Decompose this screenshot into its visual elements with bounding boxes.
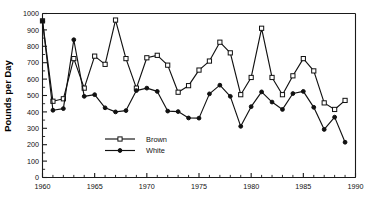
line-chart: Pounds per Day 0100200300400500600700800… — [0, 0, 375, 209]
series-line — [43, 21, 346, 142]
y-axis-title-label: Pounds per Day — [2, 60, 13, 132]
chart-container: Pounds per Day 0100200300400500600700800… — [0, 0, 375, 209]
data-point — [51, 108, 55, 112]
data-point — [166, 109, 170, 113]
y-tick-label: 500 — [27, 91, 39, 100]
y-axis-ticks: 01002003004005006007008009001000 — [23, 9, 47, 182]
x-axis-ticks: 1960196519701975198019851990 — [35, 173, 364, 191]
legend-item-white: White — [105, 146, 165, 155]
legend-marker-filled-circle — [118, 149, 122, 153]
data-point — [333, 115, 337, 119]
data-point — [312, 105, 316, 109]
data-point — [72, 38, 76, 42]
data-point — [155, 53, 159, 57]
data-point — [249, 75, 253, 79]
y-axis-title: Pounds per Day — [2, 60, 13, 132]
y-tick-label: 700 — [27, 58, 39, 67]
data-point — [176, 110, 180, 114]
data-point — [228, 51, 232, 55]
x-tick-label: 1965 — [87, 182, 103, 191]
data-point — [124, 109, 128, 113]
data-point — [187, 116, 191, 120]
data-point — [260, 90, 264, 94]
data-point — [72, 57, 76, 61]
data-point — [270, 75, 274, 79]
data-point — [301, 57, 305, 61]
data-point — [301, 90, 305, 94]
x-tick-label: 1980 — [243, 182, 259, 191]
data-point — [82, 94, 86, 98]
y-tick-label: 300 — [27, 124, 39, 133]
data-point — [155, 90, 159, 94]
data-point — [176, 90, 180, 94]
data-point — [343, 140, 347, 144]
y-tick-label: 900 — [27, 26, 39, 35]
data-point — [208, 92, 212, 96]
data-point — [270, 100, 274, 104]
y-tick-label: 100 — [27, 157, 39, 166]
data-point — [145, 86, 149, 90]
data-point — [312, 69, 316, 73]
data-point — [113, 18, 117, 22]
data-point — [166, 63, 170, 67]
data-point — [135, 89, 139, 93]
data-point — [218, 40, 222, 44]
chart-legend: BrownWhite — [105, 135, 167, 156]
data-point — [291, 74, 295, 78]
y-tick-label: 800 — [27, 42, 39, 51]
data-point — [93, 54, 97, 58]
data-point — [228, 94, 232, 98]
data-point — [333, 107, 337, 111]
data-point — [103, 106, 107, 110]
data-point — [260, 26, 264, 30]
x-tick-label: 1975 — [191, 182, 207, 191]
x-tick-label: 1960 — [35, 182, 51, 191]
data-point — [114, 110, 118, 114]
y-tick-label: 400 — [27, 108, 39, 117]
legend-label: White — [146, 146, 165, 155]
data-point — [103, 62, 107, 66]
data-point — [322, 128, 326, 132]
legend-label: Brown — [146, 135, 167, 144]
y-tick-label: 600 — [27, 75, 39, 84]
y-tick-label: 200 — [27, 140, 39, 149]
x-tick-label: 1990 — [348, 182, 364, 191]
data-point — [239, 124, 243, 128]
data-point — [61, 107, 65, 111]
data-point — [124, 57, 128, 61]
data-point — [239, 93, 243, 97]
y-tick-label: 0 — [35, 173, 39, 182]
data-point — [41, 19, 45, 23]
data-point — [207, 59, 211, 63]
chart-series — [40, 18, 347, 144]
data-point — [186, 84, 190, 88]
data-point — [197, 68, 201, 72]
data-point — [291, 92, 295, 96]
data-point — [249, 105, 253, 109]
series-brown — [40, 18, 347, 112]
data-point — [281, 108, 285, 112]
x-tick-label: 1970 — [139, 182, 155, 191]
data-point — [93, 93, 97, 97]
data-point — [218, 83, 222, 87]
legend-item-brown: Brown — [105, 135, 167, 144]
data-point — [197, 116, 201, 120]
data-point — [322, 101, 326, 105]
data-point — [280, 93, 284, 97]
data-point — [145, 56, 149, 60]
legend-marker-open-square — [118, 137, 122, 141]
data-point — [343, 98, 347, 102]
y-tick-label: 1000 — [23, 9, 39, 18]
x-tick-label: 1985 — [295, 182, 311, 191]
